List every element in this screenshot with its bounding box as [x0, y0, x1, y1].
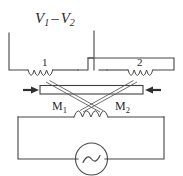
coil-1-label: 1: [42, 57, 48, 68]
secondary-circuit-left: [9, 33, 93, 70]
primary-left-and-bottom-wire: [18, 117, 78, 159]
mutual-inductance-2-label: M2: [115, 100, 130, 112]
primary-coil-turns: [74, 111, 108, 117]
primary-coil-windings: [74, 111, 108, 117]
primary-right-and-bottom-wire: [105, 117, 164, 159]
mutual-inductance-1-label: M1: [52, 100, 67, 112]
arrow-right-head: [145, 86, 153, 93]
circuit-diagram-figure: V1–V2 1 2 M1 M2: [0, 0, 183, 176]
coil-2-label: 2: [137, 57, 143, 68]
m1-subscript: 1: [63, 105, 67, 115]
coil-1-windings: [28, 70, 78, 76]
voltage-subscript-1: 1: [44, 17, 49, 28]
ac-source-symbol: [76, 143, 108, 175]
voltage-symbol-1: V: [35, 10, 44, 26]
circuit-schematic-canvas: [0, 0, 183, 176]
voltage-symbol-2: V: [61, 10, 70, 26]
coil-2-windings: [107, 70, 153, 76]
left-output-lead: [9, 33, 28, 70]
core-motion-arrow-right: [145, 86, 161, 93]
secondary-circuit-right: [88, 31, 174, 70]
coil-1-turns: [28, 70, 53, 76]
primary-circuit-loop: [18, 117, 164, 159]
coil-2-turns: [128, 70, 153, 76]
right-top-lead: [88, 58, 174, 70]
core-motion-arrow-left: [23, 86, 39, 93]
sine-wave-icon: [83, 156, 100, 163]
arrow-left-head: [31, 86, 39, 93]
m2-subscript: 2: [126, 105, 130, 115]
voltage-subscript-2: 2: [70, 17, 75, 28]
voltage-minus-sign: –: [49, 10, 61, 26]
m1-symbol: M: [52, 99, 63, 113]
m2-symbol: M: [115, 99, 126, 113]
output-voltage-label: V1–V2: [35, 11, 75, 26]
left-inner-lead: [78, 58, 93, 70]
